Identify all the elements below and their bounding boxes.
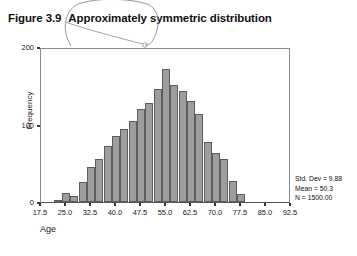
y-tick-label: 200	[21, 43, 34, 52]
histogram-bar	[195, 114, 203, 202]
x-tick-mark	[189, 203, 191, 206]
x-tick-mark	[164, 203, 166, 206]
x-tick-mark	[289, 203, 291, 206]
histogram-bar	[70, 196, 78, 202]
x-tick-label: 55.0	[158, 208, 173, 217]
figure-caption: Figure 3.9 Approximately symmetric distr…	[8, 8, 349, 28]
y-axis-label: Frequency	[25, 76, 34, 146]
x-tick-label: 70.0	[208, 208, 223, 217]
x-tick-label: 85.0	[258, 208, 273, 217]
histogram-bar	[187, 101, 195, 202]
x-tick-mark	[89, 203, 91, 206]
histogram-bar	[162, 69, 170, 202]
histogram-bar	[62, 193, 70, 202]
figure-number: Figure 3.9	[8, 12, 61, 24]
stat-mean: Mean = 50.3	[295, 184, 342, 194]
histogram-bar	[79, 182, 87, 202]
y-tick-200: 200	[0, 48, 40, 49]
x-tick-mark	[239, 203, 241, 206]
x-tick-mark	[214, 203, 216, 206]
y-tick-label: 100	[21, 121, 34, 130]
histogram-bar	[120, 129, 128, 202]
x-tick-label: 40.0	[108, 208, 123, 217]
histogram-bar	[95, 159, 103, 202]
histogram-bar	[237, 194, 245, 202]
x-tick-label: 77.5	[233, 208, 248, 217]
stat-n: N = 1500.00	[295, 193, 342, 203]
histogram-bar	[145, 103, 153, 202]
histogram-bar	[220, 159, 228, 202]
histogram-bar	[204, 142, 212, 202]
histogram-bar	[112, 136, 120, 202]
x-tick-label: 32.5	[83, 208, 98, 217]
x-tick-mark	[64, 203, 66, 206]
plot-frame	[40, 48, 290, 203]
bars-layer	[41, 49, 289, 202]
x-tick-label: 17.5	[33, 208, 48, 217]
histogram-bar	[179, 91, 187, 202]
x-tick-label: 47.5	[133, 208, 148, 217]
x-tick-mark	[114, 203, 116, 206]
histogram-bar	[154, 89, 162, 202]
x-tick-label: 25.0	[58, 208, 73, 217]
stat-std-dev: Std. Dev = 9.88	[295, 174, 342, 184]
statistics-box: Std. Dev = 9.88 Mean = 50.3 N = 1500.00	[295, 174, 342, 203]
y-tick-label: 0	[30, 198, 34, 207]
histogram-bar	[170, 85, 178, 202]
y-tick-0: 0	[0, 203, 40, 204]
x-tick-label: 62.5	[183, 208, 198, 217]
histogram-bar	[229, 181, 237, 202]
x-tick-label: 92.5	[283, 208, 298, 217]
histogram-chart: Frequency 200 100 0 17.525.032.540.047.5…	[0, 34, 357, 256]
x-axis-label: Age	[40, 224, 56, 234]
histogram-bar	[129, 121, 137, 202]
x-tick-mark	[139, 203, 141, 206]
histogram-bar	[212, 153, 220, 202]
histogram-bar	[87, 167, 95, 202]
x-tick-mark	[39, 203, 41, 206]
figure-title: Approximately symmetric distribution	[68, 12, 271, 24]
histogram-bar	[137, 109, 145, 202]
histogram-bar	[54, 200, 62, 202]
x-tick-mark	[264, 203, 266, 206]
histogram-bar	[104, 146, 112, 202]
y-tick-100: 100	[0, 126, 40, 127]
